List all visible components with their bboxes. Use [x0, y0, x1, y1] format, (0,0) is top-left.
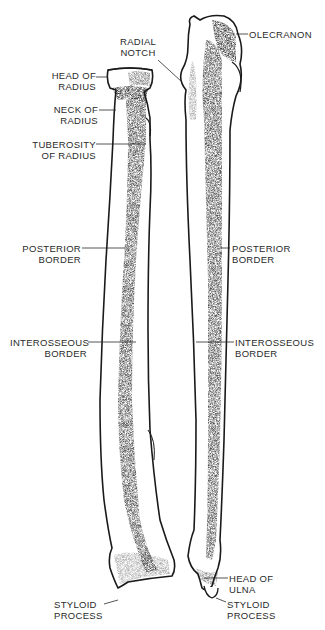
- label-radial-notch: RADIAL NOTCH: [120, 36, 156, 58]
- label-styloid-process-radius: STYLOID PROCESS: [54, 599, 103, 621]
- radius-bone: [100, 68, 175, 588]
- label-interosseous-border-ulna: INTEROSSEOUS BORDER: [235, 337, 314, 359]
- label-styloid-process-ulna: STYLOID PROCESS: [227, 599, 276, 621]
- ulna-bone: [181, 16, 242, 599]
- label-head-of-radius: HEAD OF RADIUS: [38, 70, 96, 92]
- label-head-of-ulna: HEAD OF ULNA: [229, 573, 273, 595]
- bones-illustration: [0, 0, 325, 630]
- label-interosseous-border-radius: INTEROSSEOUS BORDER: [10, 337, 87, 359]
- label-olecranon: OLECRANON: [249, 29, 312, 40]
- label-neck-of-radius: NECK OF RADIUS: [40, 104, 98, 126]
- label-posterior-border-ulna: POSTERIOR BORDER: [232, 243, 291, 265]
- label-tuberosity-of-radius: TUBEROSITY OF RADIUS: [30, 139, 96, 161]
- radius-ulna-diagram: RADIAL NOTCH OLECRANON HEAD OF RADIUS NE…: [0, 0, 325, 630]
- label-posterior-border-radius: POSTERIOR BORDER: [20, 243, 81, 265]
